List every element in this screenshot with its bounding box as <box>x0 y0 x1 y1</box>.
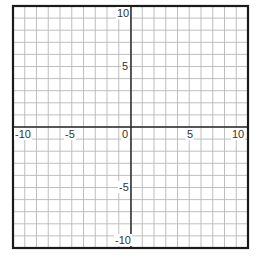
y-label-10: 10 <box>116 7 130 19</box>
x-label-neg5: -5 <box>64 128 76 140</box>
coordinate-plane <box>0 0 259 267</box>
x-label-neg10: -10 <box>14 128 32 140</box>
y-label-neg10: -10 <box>114 234 132 246</box>
x-label-10: 10 <box>231 128 245 140</box>
x-label-5: 5 <box>186 128 194 140</box>
y-label-neg5: -5 <box>118 181 130 193</box>
x-label-0: 0 <box>121 128 129 140</box>
y-label-5: 5 <box>121 60 129 72</box>
